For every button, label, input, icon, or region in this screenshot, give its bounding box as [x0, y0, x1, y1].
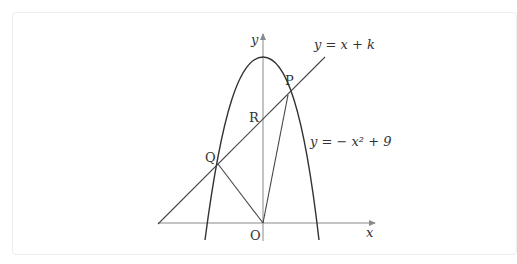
line-equation-label: y = x + k [313, 37, 375, 52]
segment-OP [263, 95, 288, 223]
point-Q-label: Q [205, 150, 216, 165]
parabola-equation-label: y = − x² + 9 [309, 134, 392, 149]
point-R-label: R [249, 110, 260, 125]
origin-label: O [250, 228, 261, 243]
segment-OQ [218, 164, 263, 223]
point-P-label: P [285, 73, 294, 88]
line-y-equals-x-plus-k [158, 57, 325, 224]
y-axis-label: y [250, 32, 259, 47]
x-axis-label: x [366, 225, 374, 240]
parabola-curve [205, 57, 319, 240]
